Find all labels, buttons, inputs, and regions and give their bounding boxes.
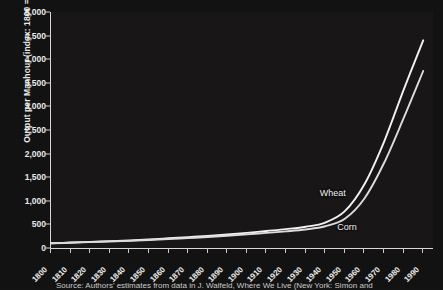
x-axis-tick-mark <box>246 248 247 253</box>
y-axis-tick-mark <box>45 248 50 249</box>
y-axis-tick-mark <box>45 12 50 13</box>
x-axis-tick-mark <box>70 248 71 253</box>
x-axis-tick-mark <box>187 248 188 253</box>
series-lines <box>51 12 433 248</box>
y-axis-tick-label: 1,500 <box>2 172 46 182</box>
x-axis-tick-mark <box>109 248 110 253</box>
y-axis-tick-mark <box>45 224 50 225</box>
x-axis-tick-mark <box>265 248 266 253</box>
series-label-corn: Corn <box>337 222 357 232</box>
y-axis-tick-mark <box>45 130 50 131</box>
y-axis-tick-label: 2,000 <box>2 149 46 159</box>
source-caption: Source: Authors' estimates from data in … <box>56 281 443 290</box>
x-axis-tick-mark <box>344 248 345 253</box>
line-series-wheat <box>51 40 423 243</box>
y-axis-tick-mark <box>45 35 50 36</box>
y-axis-tick-mark <box>45 106 50 107</box>
x-axis-tick-mark <box>305 248 306 253</box>
y-axis-tick-mark <box>45 200 50 201</box>
series-label-wheat: Wheat <box>320 188 346 198</box>
x-axis-tick-mark <box>50 248 51 253</box>
y-axis-tick-mark <box>45 59 50 60</box>
y-axis-tick-mark <box>45 82 50 83</box>
x-axis-tick-mark <box>168 248 169 253</box>
plot-area <box>50 12 433 249</box>
x-axis-tick-mark <box>207 248 208 253</box>
y-axis-tick-label: 3,500 <box>2 78 46 88</box>
x-axis-tick-mark <box>403 248 404 253</box>
y-axis-tick-label: 1,000 <box>2 196 46 206</box>
x-axis-tick-mark <box>383 248 384 253</box>
line-series-corn <box>51 71 423 243</box>
y-axis-tick-label: 4,000 <box>2 54 46 64</box>
chart-screenshot: Output per Manhour (index: 1800 = 100) 0… <box>0 0 443 290</box>
x-axis-tick-mark <box>285 248 286 253</box>
y-axis-tick-label: 3,000 <box>2 101 46 111</box>
x-axis-tick-mark <box>128 248 129 253</box>
x-axis-tick-mark <box>89 248 90 253</box>
y-axis-tick-label: 2,500 <box>2 125 46 135</box>
x-axis-tick-mark <box>422 248 423 253</box>
y-axis-tick-labels: 05001,0001,5002,0002,5003,0003,5004,0004… <box>0 0 46 290</box>
x-axis-tick-mark <box>363 248 364 253</box>
y-axis-tick-label: 0 <box>2 243 46 253</box>
x-axis-tick-mark <box>148 248 149 253</box>
y-axis-tick-mark <box>45 153 50 154</box>
x-axis-tick-mark <box>324 248 325 253</box>
y-axis-tick-label: 4,500 <box>2 31 46 41</box>
y-axis-tick-label: 5,000 <box>2 7 46 17</box>
x-axis-tick-mark <box>226 248 227 253</box>
y-axis-tick-mark <box>45 177 50 178</box>
y-axis-tick-label: 500 <box>2 219 46 229</box>
